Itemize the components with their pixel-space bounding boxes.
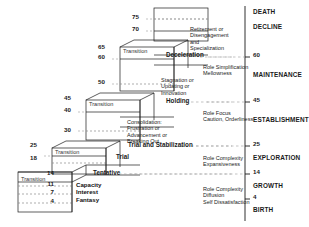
description-block-7: Role ComplexityDiffusionSelf Dissatisfac… bbox=[203, 186, 249, 205]
description-line: Disengagement bbox=[190, 32, 229, 38]
description-block-6: CapacityInterestFantasy bbox=[76, 181, 101, 203]
career-stages-diagram: 75706560504540302518141174TransitionTran… bbox=[0, 0, 309, 227]
age-label-7: 7 bbox=[42, 189, 54, 196]
age-label-4: 4 bbox=[42, 198, 54, 205]
description-block-1: Role SimplificationMellowness bbox=[203, 64, 248, 77]
axis-stage-decline: DECLINE bbox=[253, 24, 282, 31]
description-block-3: Role FocusCaution, Orderliness bbox=[203, 110, 253, 123]
age-label-30: 30 bbox=[59, 127, 71, 134]
description-line: Specialization bbox=[190, 45, 229, 51]
transition-label-2: Transition bbox=[55, 150, 79, 156]
axis-stage-establishment: ESTABLISHMENT bbox=[253, 117, 309, 124]
description-line: Capacity bbox=[76, 181, 101, 188]
description-line: Self Dissatisfaction bbox=[203, 199, 249, 205]
description-block-4: Consolidation:Frustration orAdvancement … bbox=[127, 119, 167, 145]
description-line: Breaking Out bbox=[127, 138, 167, 144]
description-line: Mellowness bbox=[203, 70, 248, 76]
phase-label-trial: Trial bbox=[116, 154, 129, 161]
axis-tick-60: 60 bbox=[253, 52, 260, 59]
age-label-40: 40 bbox=[59, 107, 71, 114]
axis-tick-25: 25 bbox=[253, 141, 260, 148]
age-label-60: 60 bbox=[93, 54, 105, 61]
phase-label-deceleration: Deceleration bbox=[166, 52, 204, 59]
right-axis-ticks bbox=[245, 57, 250, 199]
axis-stage-growth: GROWTH bbox=[253, 183, 283, 190]
axis-tick-45: 45 bbox=[253, 97, 260, 104]
description-block-5: Role ComplexityExpansiveness bbox=[203, 155, 243, 168]
axis-stage-birth: BIRTH bbox=[253, 207, 273, 214]
staircase-diagonals bbox=[18, 165, 140, 175]
age-label-50: 50 bbox=[93, 79, 105, 86]
age-label-65: 65 bbox=[93, 44, 105, 51]
age-label-18: 18 bbox=[25, 155, 37, 162]
phase-label-holding: Holding bbox=[166, 98, 189, 105]
description-line: Interest bbox=[76, 188, 101, 195]
description-block-2: Stagnation orUpdating orInnovation bbox=[161, 77, 194, 96]
axis-tick-14: 14 bbox=[253, 169, 260, 176]
axis-stage-maintenance: MAINTENANCE bbox=[253, 72, 302, 79]
description-block-0: Retirement orDisengagementandSpecializat… bbox=[190, 26, 229, 52]
description-line: Updating or bbox=[161, 83, 194, 89]
axis-tick-4: 4 bbox=[253, 194, 256, 201]
transition-label-1: Transition bbox=[89, 102, 113, 108]
description-line: Caution, Orderliness bbox=[203, 116, 253, 122]
axis-stage-exploration: EXPLORATION bbox=[253, 155, 300, 162]
age-label-45: 45 bbox=[59, 95, 71, 102]
age-label-25: 25 bbox=[25, 142, 37, 149]
phase-label-tentative: Tentative bbox=[93, 170, 120, 177]
description-line: Expansiveness bbox=[203, 161, 243, 167]
age-label-70: 70 bbox=[127, 26, 139, 33]
description-line: Innovation bbox=[161, 90, 194, 96]
axis-stage-death: DEATH bbox=[253, 9, 275, 16]
age-label-75: 75 bbox=[127, 14, 139, 21]
transition-label-0: Transition bbox=[123, 49, 147, 55]
description-line: Fantasy bbox=[76, 196, 101, 203]
transition-label-3: Transition bbox=[21, 177, 45, 183]
